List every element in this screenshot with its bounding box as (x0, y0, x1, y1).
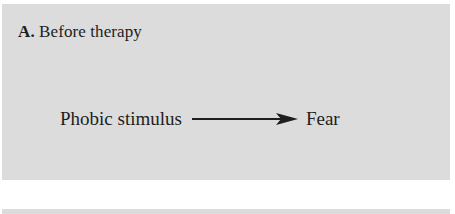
conditioning-flow: Phobic stimulus Fear (60, 108, 340, 130)
panel-title: A. Before therapy (18, 22, 142, 42)
panel-letter: A. (18, 22, 35, 41)
next-panel-edge (2, 209, 450, 214)
stimulus-node: Phobic stimulus (60, 108, 182, 130)
panel-title-text: Before therapy (35, 22, 142, 41)
arrow-right-icon (192, 112, 298, 126)
response-node: Fear (306, 108, 340, 130)
before-therapy-panel: A. Before therapy Phobic stimulus Fear (2, 4, 450, 180)
